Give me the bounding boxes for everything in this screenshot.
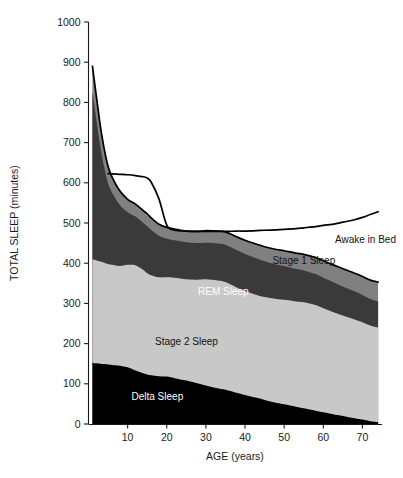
x-axis-title: AGE (years) — [206, 450, 264, 462]
band-label-rem-sleep: REM Sleep — [198, 286, 249, 297]
x-tick-label: 60 — [317, 431, 329, 443]
y-tick-label: 1000 — [57, 16, 81, 28]
y-tick-label: 100 — [63, 377, 81, 389]
y-tick-label: 400 — [63, 257, 81, 269]
y-axis-title: TOTAL SLEEP (minutes) — [8, 165, 20, 281]
y-tick-label: 0 — [75, 418, 81, 430]
band-label-stage-2-sleep: Stage 2 Sleep — [155, 336, 218, 347]
y-tick-label: 700 — [63, 136, 81, 148]
x-tick-label: 70 — [357, 431, 369, 443]
y-tick-label: 300 — [63, 297, 81, 309]
y-tick-label: 800 — [63, 96, 81, 108]
chart-canvas: 0100200300400500600700800900100010203040… — [0, 0, 403, 478]
y-tick-label: 600 — [63, 176, 81, 188]
y-tick-label: 200 — [63, 337, 81, 349]
band-label-stage-1-sleep: Stage 1 Sleep — [272, 255, 335, 266]
band-label-awake-in-bed: Awake in Bed — [335, 234, 396, 245]
x-tick-label: 30 — [200, 431, 212, 443]
y-tick-label: 900 — [63, 56, 81, 68]
x-tick-label: 50 — [278, 431, 290, 443]
sleep-stages-stacked-area-chart: 0100200300400500600700800900100010203040… — [0, 0, 403, 478]
band-label-delta-sleep: Delta Sleep — [132, 391, 184, 402]
x-tick-label: 20 — [161, 431, 173, 443]
x-tick-label: 40 — [239, 431, 251, 443]
x-tick-label: 10 — [122, 431, 134, 443]
y-tick-label: 500 — [63, 217, 81, 229]
